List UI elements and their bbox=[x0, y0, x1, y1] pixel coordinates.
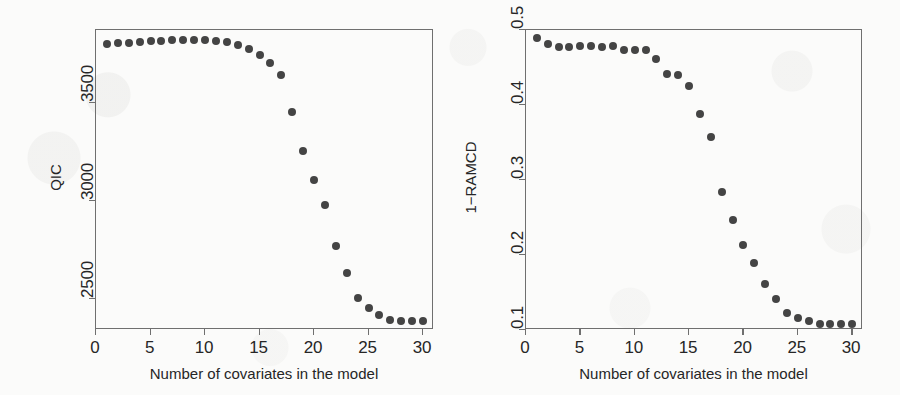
data-point bbox=[386, 316, 394, 324]
x-axis-tick-label: 10 bbox=[624, 338, 643, 358]
x-axis-tick-label: 30 bbox=[413, 338, 432, 358]
data-point bbox=[277, 71, 285, 79]
data-point bbox=[544, 40, 552, 48]
x-axis-tick-label: 25 bbox=[358, 338, 377, 358]
x-axis-tick bbox=[634, 329, 635, 335]
data-point bbox=[266, 59, 274, 67]
data-point bbox=[136, 38, 144, 46]
x-axis-tick-label: 20 bbox=[733, 338, 752, 358]
x-axis-tick-label: 0 bbox=[520, 338, 529, 358]
x-axis-tick-label: 0 bbox=[90, 338, 99, 358]
x-axis-tick bbox=[851, 329, 852, 335]
data-point bbox=[212, 37, 220, 45]
data-point bbox=[343, 269, 351, 277]
y-axis-tick bbox=[519, 29, 525, 30]
data-point bbox=[772, 295, 780, 303]
data-point bbox=[310, 176, 318, 184]
x-axis-tick bbox=[95, 329, 96, 335]
x-axis-tick-label: 30 bbox=[842, 338, 861, 358]
data-point bbox=[642, 46, 650, 54]
x-axis-tick-label: 15 bbox=[249, 338, 268, 358]
data-point bbox=[576, 42, 584, 50]
data-point bbox=[631, 46, 639, 54]
qic-panel: 051015202530250030003500Number of covari… bbox=[0, 0, 450, 395]
data-point bbox=[739, 241, 747, 249]
x-axis-tick bbox=[525, 329, 526, 335]
data-point bbox=[816, 320, 824, 328]
data-point bbox=[805, 317, 813, 325]
data-point bbox=[201, 36, 209, 44]
x-axis-tick bbox=[313, 329, 314, 335]
data-point bbox=[783, 309, 791, 317]
ramcd-plot-area bbox=[526, 30, 861, 328]
data-point bbox=[609, 42, 617, 50]
qic-plot-frame bbox=[95, 29, 433, 329]
x-axis-tick bbox=[204, 329, 205, 335]
x-axis-tick-label: 5 bbox=[575, 338, 584, 358]
data-point bbox=[652, 55, 660, 63]
data-point bbox=[419, 317, 427, 325]
x-axis-tick bbox=[368, 329, 369, 335]
data-point bbox=[168, 36, 176, 44]
data-point bbox=[103, 40, 111, 48]
data-point bbox=[533, 34, 541, 42]
y-axis-tick bbox=[519, 254, 525, 255]
x-axis-tick-label: 20 bbox=[304, 338, 323, 358]
x-axis-tick-label: 15 bbox=[679, 338, 698, 358]
data-point bbox=[837, 320, 845, 328]
data-point bbox=[234, 41, 242, 49]
data-point bbox=[750, 259, 758, 267]
data-point bbox=[794, 314, 802, 322]
data-point bbox=[555, 43, 563, 51]
x-axis-tick bbox=[259, 329, 260, 335]
data-point bbox=[565, 43, 573, 51]
data-point bbox=[761, 280, 769, 288]
data-point bbox=[365, 304, 373, 312]
data-point bbox=[190, 36, 198, 44]
y-axis-tick bbox=[519, 179, 525, 180]
data-point bbox=[354, 294, 362, 302]
data-point bbox=[245, 45, 253, 53]
data-point bbox=[674, 71, 682, 79]
data-point bbox=[397, 317, 405, 325]
x-axis-tick bbox=[579, 329, 580, 335]
data-point bbox=[848, 320, 856, 328]
data-point bbox=[718, 188, 726, 196]
x-axis-tick bbox=[422, 329, 423, 335]
data-point bbox=[826, 320, 834, 328]
qic-plot-area bbox=[96, 30, 432, 328]
data-point bbox=[125, 39, 133, 47]
x-axis-tick-label: 5 bbox=[145, 338, 154, 358]
x-axis-tick bbox=[742, 329, 743, 335]
y-axis-tick bbox=[519, 329, 525, 330]
data-point bbox=[256, 51, 264, 59]
data-point bbox=[587, 42, 595, 50]
data-point bbox=[729, 216, 737, 224]
data-point bbox=[332, 242, 340, 250]
x-axis-title: Number of covariates in the model bbox=[579, 365, 807, 382]
figure-root: 051015202530250030003500Number of covari… bbox=[0, 0, 900, 395]
data-point bbox=[598, 43, 606, 51]
x-axis-tick bbox=[150, 329, 151, 335]
data-point bbox=[147, 37, 155, 45]
data-point bbox=[179, 36, 187, 44]
y-axis-tick bbox=[519, 104, 525, 105]
x-axis-tick bbox=[797, 329, 798, 335]
x-axis-tick bbox=[688, 329, 689, 335]
x-axis-tick-label: 10 bbox=[195, 338, 214, 358]
data-point bbox=[620, 46, 628, 54]
y-axis-title: 1−RAMCD bbox=[462, 118, 479, 238]
data-point bbox=[321, 201, 329, 209]
ramcd-plot-frame bbox=[525, 29, 862, 329]
x-axis-title: Number of covariates in the model bbox=[150, 365, 378, 382]
data-point bbox=[223, 38, 231, 46]
data-point bbox=[663, 70, 671, 78]
data-point bbox=[707, 133, 715, 141]
ramcd-panel: 0510152025300.10.20.30.40.5Number of cov… bbox=[450, 0, 900, 395]
data-point bbox=[157, 37, 165, 45]
data-point bbox=[114, 39, 122, 47]
data-point bbox=[408, 317, 416, 325]
data-point bbox=[288, 108, 296, 116]
x-axis-tick-label: 25 bbox=[788, 338, 807, 358]
data-point bbox=[299, 147, 307, 155]
